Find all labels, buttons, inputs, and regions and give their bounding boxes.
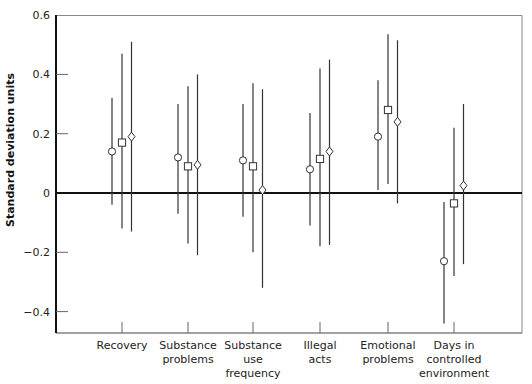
- x-category-label: problems: [362, 353, 414, 366]
- y-tick-label: −0.2: [23, 246, 50, 259]
- plot-frame: [56, 15, 522, 333]
- data-series: [108, 34, 467, 323]
- error-bar-chart: 0.60.40.20−0.2−0.4 RecoverySubstanceprob…: [0, 0, 532, 384]
- x-category-label: Substance: [224, 339, 282, 352]
- y-tick-label: 0.6: [33, 9, 51, 22]
- circle-marker: [306, 166, 313, 173]
- circle-marker: [108, 148, 115, 155]
- square-marker: [184, 163, 191, 170]
- x-category-label: Emotional: [360, 339, 415, 352]
- diamond-marker: [460, 181, 467, 190]
- diamond-marker: [394, 117, 401, 126]
- circle-marker: [174, 154, 181, 161]
- square-marker: [118, 139, 125, 146]
- y-tick-label: −0.4: [23, 306, 50, 319]
- x-category-label: frequency: [225, 367, 281, 380]
- series-square: [118, 34, 457, 276]
- square-marker: [316, 155, 323, 162]
- x-axis-ticks: RecoverySubstanceproblemsSubstanceusefre…: [96, 322, 489, 380]
- diamond-marker: [326, 147, 333, 156]
- x-category-label: Illegal: [304, 339, 337, 352]
- y-axis-label: Standard deviation units: [4, 73, 17, 227]
- y-axis-ticks: 0.60.40.20−0.2−0.4: [23, 9, 68, 319]
- y-tick-label: 0: [43, 187, 50, 200]
- series-circle: [108, 80, 447, 323]
- x-category-label: acts: [309, 353, 332, 366]
- diamond-marker: [194, 160, 201, 169]
- x-category-label: use: [243, 353, 263, 366]
- circle-marker: [374, 133, 381, 140]
- square-marker: [384, 106, 391, 113]
- x-category-label: Days in: [434, 339, 475, 352]
- square-marker: [450, 200, 457, 207]
- y-tick-label: 0.2: [33, 128, 51, 141]
- y-tick-label: 0.4: [33, 68, 51, 81]
- x-category-label: Recovery: [96, 339, 147, 352]
- square-marker: [249, 163, 256, 170]
- series-diamond: [128, 40, 467, 288]
- diamond-marker: [128, 132, 135, 141]
- x-category-label: Substance: [159, 339, 217, 352]
- x-category-label: controlled: [427, 353, 482, 366]
- circle-marker: [239, 157, 246, 164]
- x-category-label: problems: [162, 353, 214, 366]
- x-category-label: environment: [419, 367, 490, 380]
- circle-marker: [440, 258, 447, 265]
